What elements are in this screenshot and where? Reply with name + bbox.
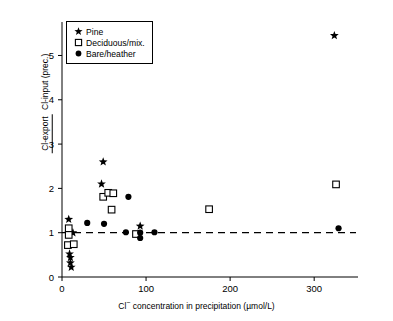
y-axis-label: Cl-export Cl-input (prec.) [40, 42, 53, 162]
legend: PineDeciduous/mix.Bare/heather [66, 21, 153, 64]
y-tick-label: 2 [49, 183, 54, 194]
data-point-circle [123, 229, 129, 235]
series-deciduous-mix [65, 181, 340, 248]
data-point-star [136, 221, 145, 229]
data-points-group [64, 31, 341, 271]
star-marker [72, 26, 85, 37]
data-point-star [99, 157, 108, 165]
data-point-circle [137, 235, 143, 241]
scatter-chart-figure: 0123450100200300 Cl-export Cl-input (pre… [0, 0, 393, 321]
y-tick-label: 1 [49, 227, 54, 238]
data-point-square [70, 241, 77, 248]
x-tick-label: 300 [306, 283, 322, 294]
data-point-circle [125, 194, 131, 200]
data-point-square [65, 232, 72, 239]
data-point-square [108, 206, 115, 213]
data-point-circle [101, 221, 107, 227]
data-point-circle [137, 230, 143, 236]
data-point-circle [151, 229, 157, 235]
series-pine [64, 31, 338, 271]
data-point-square [65, 225, 72, 232]
tick-labels-group: 0123450100200300 [49, 50, 322, 293]
filled-circle-marker [72, 48, 85, 59]
data-point-square [110, 190, 117, 197]
data-point-star [330, 31, 339, 39]
x-tick-label: 200 [222, 283, 238, 294]
data-point-star [64, 215, 73, 223]
plot-area: 0123450100200300 [0, 0, 393, 321]
y-axis-label-numerator: Cl-export [41, 114, 53, 152]
legend-item-label: Deciduous/mix. [85, 38, 145, 48]
legend-item-label: Pine [85, 27, 103, 37]
legend-item-deciduous-mix: Deciduous/mix. [72, 37, 145, 48]
legend-item-pine: Pine [72, 26, 145, 37]
x-tick-label: 100 [138, 283, 154, 294]
legend-item-label: Bare/heather [85, 49, 136, 59]
y-axis-label-denominator: Cl-input (prec.) [40, 52, 51, 112]
series-bare-heather [84, 194, 342, 241]
legend-item-bare-heather: Bare/heather [72, 48, 145, 59]
x-tick-label: 0 [59, 283, 64, 294]
y-tick-label: 0 [49, 272, 54, 283]
data-point-square [333, 181, 340, 188]
data-point-star [67, 263, 76, 271]
open-square-marker [72, 37, 85, 48]
data-point-square [206, 206, 213, 213]
data-point-star [97, 179, 106, 187]
x-axis-label: Cl− concentration in precipitation (µmol… [0, 299, 393, 311]
x-axis-label-rest: concentration in precipitation (µmol/L) [130, 301, 274, 311]
data-point-circle [335, 225, 341, 231]
data-point-circle [84, 220, 90, 226]
